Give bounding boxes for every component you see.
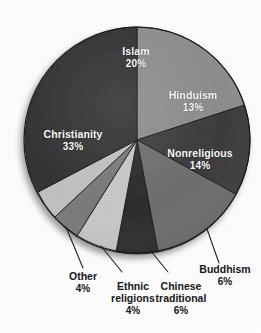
leader-line-chinese-traditional <box>150 250 168 272</box>
pie-chart: Islam 20% Hinduism 13% Nonreligious 14% … <box>0 0 261 333</box>
pie-chart-graphic <box>0 0 261 333</box>
pie-outline <box>24 27 250 253</box>
pie-slices-group <box>24 27 250 254</box>
leader-line-buddhism <box>207 229 219 263</box>
